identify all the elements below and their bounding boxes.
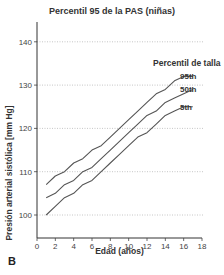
x-tick-label: 18	[198, 242, 207, 251]
series-line-5th	[46, 107, 193, 215]
series-line-50th	[46, 89, 193, 197]
x-tick-label: 10	[124, 242, 133, 251]
y-tick-label: 100	[19, 211, 33, 220]
x-tick-label: 16	[179, 242, 188, 251]
y-tick-label: 130	[19, 81, 33, 90]
x-tick-label: 4	[71, 242, 76, 251]
x-tick-label: 6	[90, 242, 95, 251]
series-line-95th	[46, 76, 193, 184]
x-tick-label: 12	[143, 242, 152, 251]
series-label-95th: 95th	[180, 72, 197, 81]
x-tick-label: 0	[35, 242, 40, 251]
series-label-50th: 50th	[180, 85, 197, 94]
y-tick-label: 140	[19, 38, 33, 47]
x-tick-label: 14	[161, 242, 170, 251]
y-tick-label: 120	[19, 124, 33, 133]
x-tick-label: 2	[53, 242, 58, 251]
series-label-5th: 5th	[180, 103, 192, 112]
y-tick-label: 110	[19, 168, 32, 177]
x-tick-label: 8	[108, 242, 113, 251]
plot-area: 10011012013014002468101214161895th50th5t…	[0, 0, 224, 275]
